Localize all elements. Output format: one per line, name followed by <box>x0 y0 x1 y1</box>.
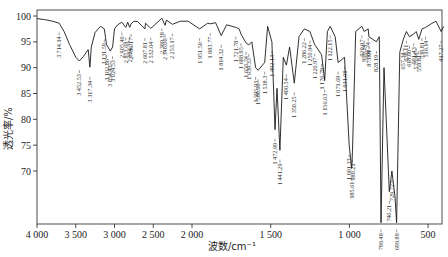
peak-label: 3 317.34 <box>86 81 93 103</box>
peak-label: 3 024.53 <box>109 60 116 82</box>
peak-label: 1 883.77 <box>206 37 213 59</box>
x-tick-label: 4 000 <box>26 229 49 240</box>
peak-label: 2 532.04 <box>147 42 154 64</box>
peak-label: 2 786.17 <box>127 38 134 60</box>
peak-label: 985.61 <box>348 182 355 199</box>
x-tick-label: 1 000 <box>338 229 361 240</box>
x-tick-label: 1 500 <box>259 229 282 240</box>
peak-label: 1 122.15 <box>326 40 333 62</box>
peak-label: 1 951.50 <box>196 42 203 64</box>
ir-spectrum-chart: 100959085807570 4 0003 5003 0002 5002 00… <box>0 0 448 257</box>
peak-label: 1 400.54 <box>282 78 289 100</box>
peak-label: 729.72 <box>388 184 395 201</box>
peak-label: 3 714.14 <box>55 36 62 58</box>
peak-label: 1 814.32 <box>217 49 224 71</box>
peak-label: 2 346.66 <box>161 38 168 60</box>
peak-labels: 3 714.143 452.533 317.343 131.593 102.86… <box>55 28 444 250</box>
y-tick-label: 70 <box>21 166 31 177</box>
peak-label: 875.91 <box>365 50 372 67</box>
peak-label: 828.19 <box>372 55 379 72</box>
peak-label: 1 492.13 <box>268 55 275 77</box>
y-tick-label: 85 <box>21 88 31 99</box>
peak-label: 1 156.63 <box>321 94 328 116</box>
peak-label: 799.48 <box>377 233 384 250</box>
peak-label: 516.14 <box>422 41 429 58</box>
y-tick-label: 95 <box>21 36 31 47</box>
peak-label: 1 538.3 <box>261 76 268 95</box>
peak-label: 1 220.97 <box>311 58 318 80</box>
peak-label: 746.21 <box>385 205 392 222</box>
peak-label: 1 472.99 <box>271 143 278 165</box>
x-axis: 4 0003 5003 0002 5002 0001 5001 000500 <box>26 224 436 240</box>
y-axis: 100959085807570 <box>16 11 37 177</box>
peak-label: 1 176.78 <box>318 68 325 90</box>
x-tick-label: 3 500 <box>65 229 88 240</box>
y-tick-label: 80 <box>21 114 31 125</box>
y-axis-title: 透光率/% <box>2 107 14 150</box>
peak-label: 1 031.08 <box>341 71 348 93</box>
x-tick-label: 3 000 <box>103 229 126 240</box>
x-tick-label: 500 <box>421 229 436 240</box>
x-tick-label: 2 500 <box>142 229 165 240</box>
peak-label: 417.27 <box>437 45 444 62</box>
x-tick-label: 2 000 <box>181 229 204 240</box>
peak-label: 1 441.29 <box>276 164 283 186</box>
y-tick-label: 90 <box>21 62 31 73</box>
y-tick-label: 75 <box>21 140 31 151</box>
peak-label: 2 253.17 <box>168 37 175 59</box>
peak-label: 980.21 <box>349 164 356 181</box>
y-tick-label: 100 <box>16 11 31 22</box>
x-axis-title: 波数/cm⁻¹ <box>208 240 256 252</box>
peak-label: 699.89 <box>393 233 400 250</box>
peak-label: 1 350.25 <box>290 96 297 118</box>
peak-label: 3 452.53 <box>75 74 82 96</box>
peak-label: 1 639.33 <box>245 58 252 80</box>
